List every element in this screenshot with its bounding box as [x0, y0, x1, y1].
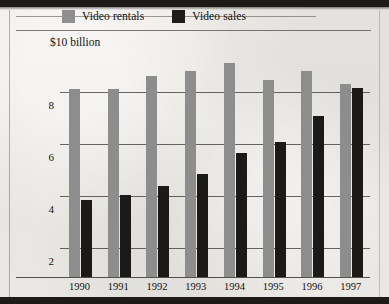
bar-video-rentals-1995 — [263, 80, 274, 277]
x-axis-tick-label-1995: 1995 — [254, 281, 293, 292]
bar-group — [331, 40, 370, 277]
bar-video-sales-1991 — [120, 195, 131, 277]
bar-video-sales-1995 — [275, 142, 286, 277]
bar-groups — [60, 40, 370, 277]
bar-video-rentals-1992 — [146, 76, 157, 277]
bar-group — [60, 40, 99, 277]
y-axis-tick-label: 4 — [34, 203, 54, 215]
bar-video-sales-1993 — [197, 174, 208, 277]
bar-video-rentals-1997 — [340, 84, 351, 277]
x-axis-tick-label-1992: 1992 — [138, 281, 177, 292]
bar-video-rentals-1990 — [69, 89, 80, 277]
plot-area: 2468 19901991199219931994199519961997 — [60, 40, 370, 277]
legend-item-video-rentals: Video rentals — [62, 10, 144, 23]
legend-label-video-rentals: Video rentals — [82, 10, 144, 22]
bar-group — [293, 40, 332, 277]
bar-video-rentals-1993 — [185, 71, 196, 277]
bar-video-sales-1992 — [158, 186, 169, 277]
legend-label-video-sales: Video sales — [192, 10, 246, 22]
x-axis-tick-label-1991: 1991 — [99, 281, 138, 292]
x-axis-tick-label-1996: 1996 — [293, 281, 332, 292]
bar-group — [254, 40, 293, 277]
x-axis-tick-label-1994: 1994 — [215, 281, 254, 292]
chart-legend: Video rentals Video sales — [62, 8, 246, 24]
scan-edge-band-top — [0, 0, 389, 7]
chart-screenshot: Video rentals Video sales $10 billion 24… — [0, 0, 389, 304]
scan-edge-band-bottom — [0, 297, 389, 304]
y-axis-tick-label: 2 — [34, 255, 54, 267]
bar-group — [138, 40, 177, 277]
legend-item-video-sales: Video sales — [172, 10, 246, 23]
y-axis-tick-label: 8 — [34, 99, 54, 111]
bar-video-sales-1997 — [352, 88, 363, 277]
x-axis-tick-label-1997: 1997 — [331, 281, 370, 292]
bar-video-sales-1996 — [313, 116, 324, 277]
bar-video-sales-1990 — [81, 200, 92, 277]
bar-video-sales-1994 — [236, 153, 247, 277]
legend-swatch-icon-video-rentals — [62, 10, 75, 23]
x-axis-tick-label-1993: 1993 — [176, 281, 215, 292]
legend-swatch-icon-video-sales — [172, 10, 185, 23]
bar-group — [215, 40, 254, 277]
right-margin-rule — [379, 10, 380, 297]
bar-video-rentals-1991 — [108, 89, 119, 277]
bar-video-rentals-1996 — [301, 71, 312, 277]
bar-video-rentals-1994 — [224, 63, 235, 277]
bar-group — [176, 40, 215, 277]
left-margin-rule — [9, 10, 10, 297]
legend-rule-lower — [16, 30, 371, 31]
x-axis-tick-label-1990: 1990 — [60, 281, 99, 292]
x-axis-baseline — [16, 277, 370, 278]
y-axis-tick-label: 6 — [34, 151, 54, 163]
bar-group — [99, 40, 138, 277]
